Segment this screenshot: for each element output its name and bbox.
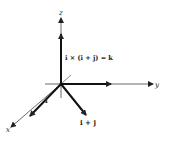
z-axis-label: z (58, 9, 63, 17)
x-axis-negative (61, 75, 71, 84)
y-axis-label: y (154, 81, 160, 89)
vector-k-label: i × (i + j) = k (65, 54, 113, 62)
vector-i-label: i (45, 96, 48, 105)
origin-point (60, 83, 63, 86)
cross-product-diagram: z y x i × (i + j) = k i i + j (0, 0, 169, 146)
x-axis-label: x (6, 126, 10, 134)
vector-i-plus-j (61, 84, 86, 115)
vector-i-plus-j-label: i + j (80, 118, 96, 127)
